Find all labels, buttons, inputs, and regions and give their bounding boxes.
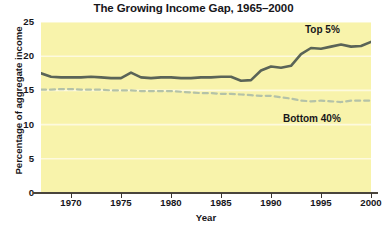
data-series-group: [41, 42, 371, 102]
y-tick-label: 15: [0, 84, 34, 95]
y-tick-label: 10: [0, 119, 34, 130]
y-tick-label: 20: [0, 50, 34, 61]
x-tick-label: 1975: [99, 197, 143, 208]
x-tick-label: 1970: [49, 197, 93, 208]
series-label-bottom40: Bottom 40%: [283, 113, 341, 124]
x-tick-label: 1990: [249, 197, 293, 208]
y-tick-label: 25: [0, 16, 34, 27]
plot-svg: [41, 22, 371, 193]
series-label-top5: Top 5%: [305, 24, 340, 35]
x-tick-label: 2000: [349, 197, 387, 208]
x-tick-label: 1980: [149, 197, 193, 208]
chart-title: The Growing Income Gap, 1965–2000: [0, 2, 387, 14]
income-gap-chart-figure: The Growing Income Gap, 1965–2000 Percen…: [0, 0, 387, 230]
x-tick-label: 1985: [199, 197, 243, 208]
x-axis-line: [33, 192, 378, 194]
y-tick-label: 0: [0, 187, 34, 198]
series-line-top-5: [41, 42, 371, 81]
y-tick-label: 5: [0, 153, 34, 164]
plot-area: [41, 22, 371, 193]
x-axis-title: Year: [41, 212, 371, 223]
x-tick-label: 1995: [299, 197, 343, 208]
